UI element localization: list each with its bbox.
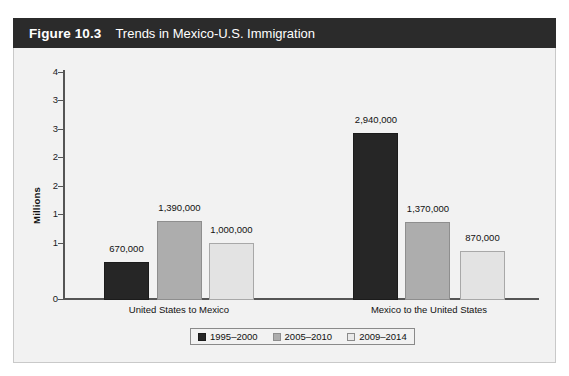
bar-g0-s0[interactable]: [104, 262, 149, 300]
y-tick-mark-1-5: [58, 214, 64, 215]
legend-label-2009-2014: 2009–2014: [359, 331, 407, 342]
y-tick-label-2: 2: [28, 180, 58, 191]
legend-label-1995-2000: 1995–2000: [210, 331, 258, 342]
chart-legend: 1995–2000 2005–2010 2009–2014: [190, 328, 415, 345]
legend-swatch-icon-2005-2010: [273, 333, 281, 341]
bar-value-g1-s1: 1,370,000: [393, 203, 463, 214]
bar-g0-s1[interactable]: [157, 221, 202, 300]
y-tick-mark-3: [58, 129, 64, 130]
y-tick-label-1: 1: [28, 237, 58, 248]
bar-value-g0-s1: 1,390,000: [147, 202, 212, 213]
group-label-mexico-to-the-united-states: Mexico to the United States: [344, 304, 514, 315]
y-axis-line: [63, 70, 65, 300]
figure-title: Trends in Mexico-U.S. Immigration: [115, 26, 315, 41]
figure-number: Figure 10.3: [29, 26, 101, 41]
legend-swatch-icon-2009-2014: [347, 333, 355, 341]
y-tick-mark-3-5: [58, 100, 64, 101]
bar-value-g0-s0: 670,000: [94, 243, 159, 254]
y-tick-label-0: 0: [28, 293, 58, 304]
bar-value-g1-s0: 2,940,000: [340, 114, 412, 125]
y-tick-label-3: 3: [28, 123, 58, 134]
y-tick-mark-1: [58, 243, 64, 244]
bar-value-g1-s2: 870,000: [450, 232, 515, 243]
bar-value-g0-s2: 1,000,000: [199, 224, 264, 235]
group-label-united-states-to-mexico: United States to Mexico: [99, 304, 259, 315]
y-tick-mark-0: [58, 299, 64, 300]
y-tick-label-4: 4: [28, 66, 58, 77]
legend-item-2009-2014[interactable]: 2009–2014: [347, 331, 407, 342]
figure-header-bar: Figure 10.3 Trends in Mexico-U.S. Immigr…: [13, 18, 556, 48]
y-tick-label-2-5: 2: [28, 151, 58, 162]
y-tick-label-1-5: 1: [28, 208, 58, 219]
legend-label-2005-2010: 2005–2010: [285, 331, 333, 342]
figure-container: Figure 10.3 Trends in Mexico-U.S. Immigr…: [0, 0, 569, 376]
legend-item-2005-2010[interactable]: 2005–2010: [273, 331, 333, 342]
bar-g1-s0[interactable]: [353, 133, 398, 300]
bar-g1-s1[interactable]: [405, 222, 450, 300]
y-tick-mark-2-5: [58, 157, 64, 158]
bar-g1-s2[interactable]: [460, 251, 505, 300]
chart-panel: Millions 4 3 3 2 2: [13, 48, 556, 363]
legend-item-1995-2000[interactable]: 1995–2000: [198, 331, 258, 342]
y-tick-mark-2: [58, 186, 64, 187]
legend-swatch-icon-1995-2000: [198, 333, 206, 341]
y-tick-label-3-5: 3: [28, 94, 58, 105]
plot-area: Millions 4 3 3 2 2: [14, 48, 557, 363]
y-tick-mark-4: [58, 72, 64, 73]
bar-g0-s2[interactable]: [209, 243, 254, 300]
